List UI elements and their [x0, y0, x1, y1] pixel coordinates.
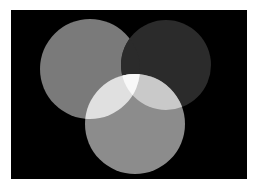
figure-root: [0, 0, 255, 189]
venn-diagram-panel: [11, 10, 247, 179]
venn-diagram-svg: [11, 10, 247, 179]
